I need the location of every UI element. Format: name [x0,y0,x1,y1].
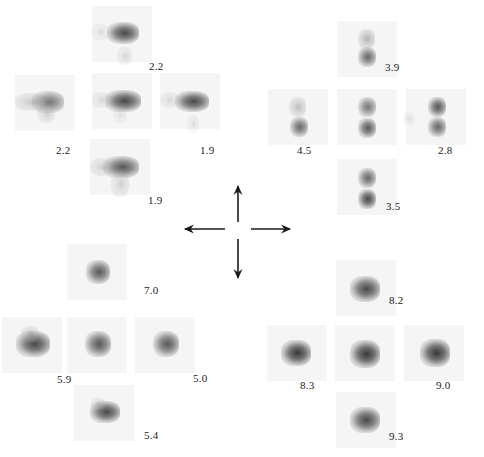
direction-arrows [0,0,484,457]
